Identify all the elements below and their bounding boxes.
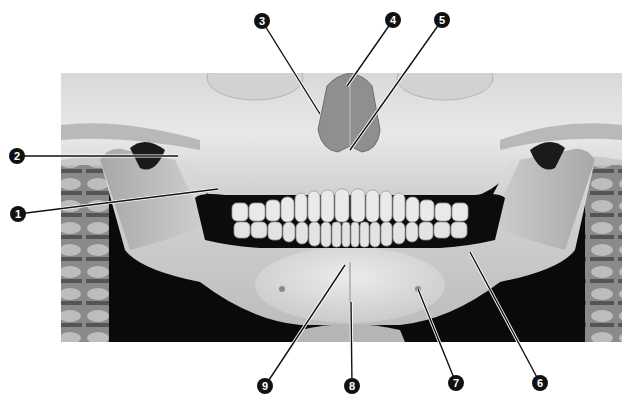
leader-line [351, 302, 352, 386]
callout-number: 6 [537, 377, 543, 389]
cervical-vertebrae-right [585, 165, 622, 342]
cervical-vertebrae-left [61, 165, 109, 342]
callout-number: 3 [259, 15, 265, 27]
callout-number: 2 [14, 150, 20, 162]
callout-number: 7 [453, 377, 459, 389]
skull-diagram: 123456789 [0, 0, 628, 404]
callout-number: 5 [439, 14, 445, 26]
callout-number: 1 [15, 208, 21, 220]
mental-foramen-left [279, 286, 285, 292]
callout-number: 4 [390, 14, 397, 26]
callout-number: 8 [349, 380, 355, 392]
callout-number: 9 [262, 380, 268, 392]
